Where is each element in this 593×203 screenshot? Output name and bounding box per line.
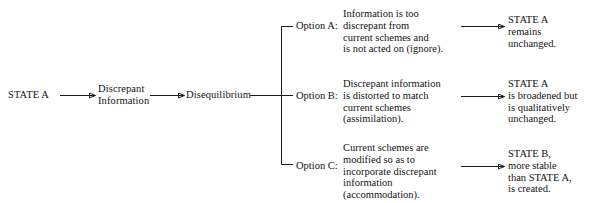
- equilibration-flow-diagram: STATE A Discrepant Information Disequili…: [0, 0, 593, 203]
- node-discrepant-information: Discrepant Information: [98, 83, 154, 106]
- option-label-a: Option A:: [296, 20, 342, 32]
- node-disequilibrium: Disequilibrium: [186, 89, 248, 101]
- option-label-c: Option C:: [296, 160, 342, 172]
- outcome-c: STATE B, more stable than STATE A, is cr…: [508, 148, 592, 195]
- option-label-b: Option B:: [296, 90, 342, 102]
- option-description-b: Discrepant information is distorted to m…: [343, 78, 455, 125]
- option-description-c: Current schemes are modified so as to in…: [343, 142, 455, 201]
- outcome-a: STATE A remains unchanged.: [508, 14, 592, 49]
- node-state-a: STATE A: [8, 89, 60, 101]
- option-description-a: Information is too discrepant from curre…: [343, 8, 455, 55]
- outcome-b: STATE A is broadened but is qualitativel…: [508, 78, 592, 125]
